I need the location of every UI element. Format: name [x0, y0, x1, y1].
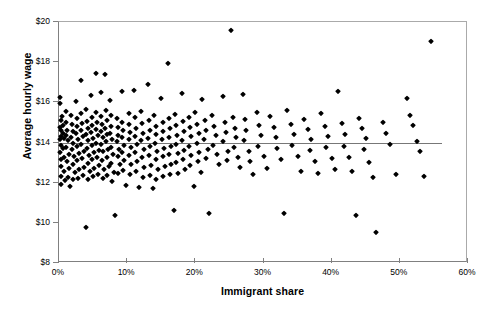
data-point — [84, 107, 89, 112]
data-point — [278, 156, 283, 161]
trend-line — [59, 143, 442, 144]
data-point — [140, 121, 145, 126]
data-point — [127, 130, 132, 135]
data-point — [339, 121, 344, 126]
y-tick-mark — [53, 142, 58, 143]
data-point — [194, 140, 199, 145]
data-point — [159, 96, 164, 101]
data-point — [71, 140, 76, 145]
x-tick-mark — [58, 258, 59, 263]
data-point — [119, 89, 124, 94]
data-point — [131, 88, 136, 93]
data-point — [172, 112, 177, 117]
data-point — [255, 143, 260, 148]
data-point — [188, 134, 193, 139]
data-point — [94, 140, 99, 145]
data-point — [80, 172, 85, 177]
data-point — [65, 158, 70, 163]
data-point — [363, 136, 368, 141]
data-point — [181, 129, 186, 134]
data-point — [145, 82, 150, 87]
data-point — [186, 115, 191, 120]
data-point — [221, 139, 226, 144]
data-point — [285, 108, 290, 113]
data-point — [261, 153, 266, 158]
data-point — [169, 161, 174, 166]
y-tick-label: $10 — [24, 218, 50, 227]
data-point — [61, 123, 66, 128]
data-point — [244, 128, 249, 133]
data-point — [271, 125, 276, 130]
data-point — [129, 161, 134, 166]
data-point — [120, 149, 125, 154]
data-point — [312, 158, 317, 163]
data-point — [298, 168, 303, 173]
data-point — [204, 128, 209, 133]
data-point — [175, 150, 180, 155]
data-point — [108, 98, 113, 103]
data-point — [67, 183, 72, 188]
data-point — [116, 146, 121, 151]
data-point — [232, 126, 237, 131]
data-point — [319, 111, 324, 116]
data-point — [121, 142, 126, 147]
data-point — [123, 182, 128, 187]
data-point — [119, 135, 124, 140]
data-point — [231, 144, 236, 149]
data-point — [166, 61, 171, 66]
data-point — [63, 109, 68, 114]
data-point — [181, 119, 186, 124]
data-point — [367, 159, 372, 164]
data-point — [90, 123, 95, 128]
data-point — [86, 138, 91, 143]
data-point — [126, 111, 131, 116]
data-point — [189, 152, 194, 157]
data-point — [151, 185, 156, 190]
x-tick-mark — [126, 258, 127, 263]
data-point — [92, 165, 97, 170]
y-tick-label: $14 — [24, 137, 50, 146]
data-point — [61, 136, 66, 141]
data-point — [146, 152, 151, 157]
data-point — [126, 137, 131, 142]
data-point — [79, 141, 84, 146]
y-tick-label: $8 — [24, 258, 50, 267]
data-point — [152, 113, 157, 118]
data-point — [360, 126, 365, 131]
data-point — [72, 169, 77, 174]
x-tick-label: 60% — [447, 268, 487, 277]
x-axis-title: Immigrant share — [58, 285, 467, 297]
data-point — [91, 173, 96, 178]
x-tick-mark — [399, 258, 400, 263]
y-tick-label: $20 — [24, 17, 50, 26]
data-point — [73, 131, 78, 136]
data-point — [103, 126, 108, 131]
data-point — [202, 118, 207, 123]
data-point — [69, 135, 74, 140]
data-point — [91, 149, 96, 154]
data-point — [58, 134, 63, 139]
data-point — [99, 157, 104, 162]
data-point — [121, 167, 126, 172]
data-point — [201, 137, 206, 142]
data-point — [106, 146, 111, 151]
data-point — [95, 154, 100, 159]
data-point — [384, 131, 389, 136]
data-point — [187, 125, 192, 130]
data-point — [155, 148, 160, 153]
data-point — [224, 157, 229, 162]
data-point — [241, 92, 246, 97]
y-tick-label: $16 — [24, 97, 50, 106]
data-point — [76, 175, 81, 180]
data-point — [322, 124, 327, 129]
data-point — [418, 148, 423, 153]
data-point — [236, 154, 241, 159]
data-point — [80, 134, 85, 139]
data-point — [65, 138, 70, 143]
data-point — [140, 131, 145, 136]
data-point — [146, 136, 151, 141]
data-point — [146, 118, 151, 123]
data-point — [100, 135, 105, 140]
x-tick-label: 20% — [174, 268, 214, 277]
data-point — [237, 164, 242, 169]
